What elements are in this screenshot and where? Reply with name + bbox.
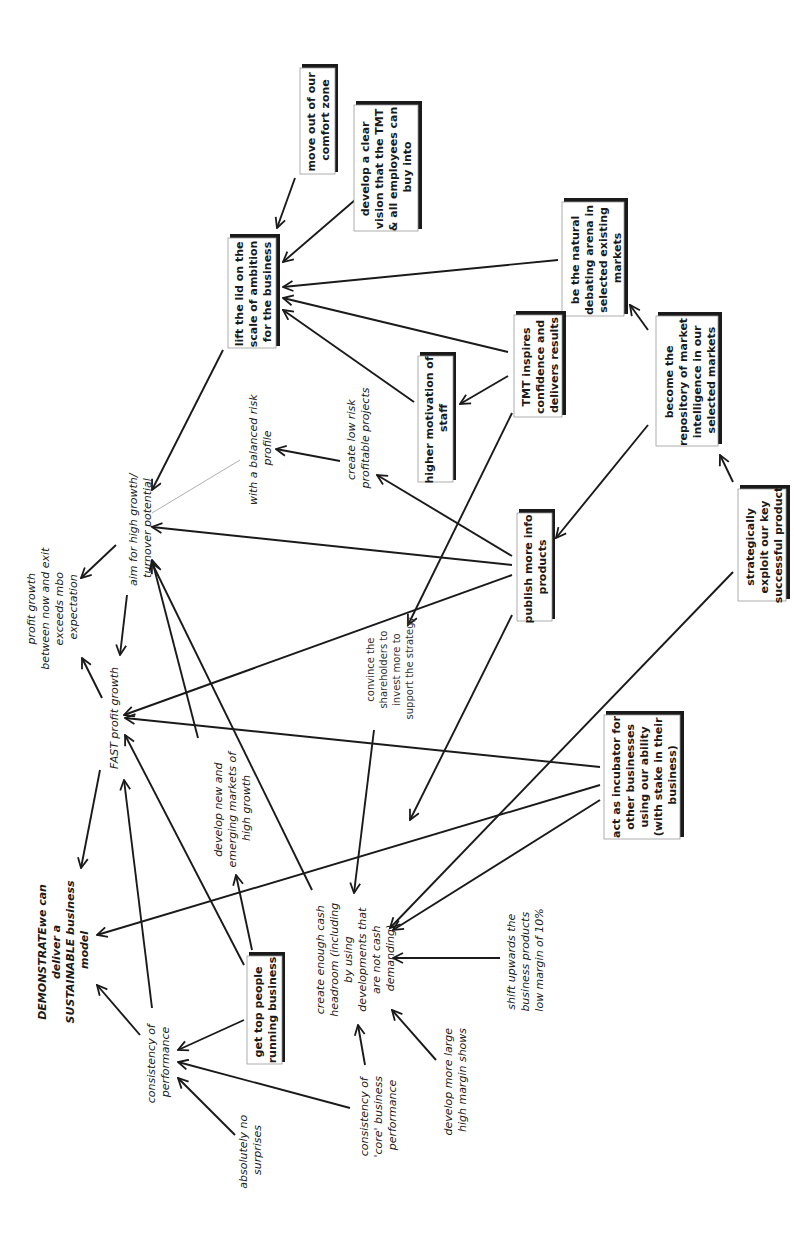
node-natural-debating-arena[interactable]: be the natural debating arena in selecte… bbox=[562, 198, 628, 316]
node-label: get top people running business bbox=[252, 956, 279, 1063]
edge-repository-to-publish bbox=[556, 425, 648, 538]
cognitive-map-canvas: move out of our comfort zone develop a c… bbox=[0, 0, 794, 1253]
node-label: TMT inspires confidence and delivers res… bbox=[520, 316, 561, 414]
node-repository-market-intelligence[interactable]: become the repository of market intellig… bbox=[656, 312, 722, 446]
edge-publish-to-cash bbox=[410, 615, 512, 820]
node-label: create low risk profitable projects bbox=[345, 387, 372, 489]
node-convince-shareholders[interactable]: convince the shareholders to invest more… bbox=[365, 616, 415, 719]
edge-publish-to-fast bbox=[124, 575, 512, 715]
edge-nosurprises-to-consistency bbox=[178, 1078, 235, 1135]
edge-fast-to-profit-exit bbox=[82, 658, 102, 698]
edge-aim-to-balanced-thin bbox=[152, 460, 240, 513]
edge-aim-to-profit-exit bbox=[81, 545, 116, 578]
edge-publish-to-lowrisk bbox=[377, 475, 512, 556]
node-act-as-incubator[interactable]: act as incubator for other businesses us… bbox=[604, 711, 684, 839]
edge-consistency-to-fast bbox=[124, 780, 152, 1008]
edge-incubator-to-fast bbox=[125, 718, 600, 767]
node-develop-clear-vision[interactable]: develop a clear vision that the TMT & al… bbox=[354, 101, 422, 231]
node-demonstrate-sustainable[interactable]: DEMONSTRATEwe can deliver a SUSTAINABLE … bbox=[36, 877, 91, 1024]
node-label: aim for high growth/ turnover potential bbox=[127, 470, 154, 586]
edge-lift-lid-to-aim bbox=[152, 350, 223, 490]
edge-incubator-to-cash bbox=[393, 800, 600, 930]
node-absolutely-no-surprises[interactable]: absolutely no surprises bbox=[237, 1111, 264, 1189]
node-label: develop more large high margin shows bbox=[442, 1024, 469, 1135]
edge-toppeople-to-newmarkets bbox=[236, 875, 252, 950]
diagram-svg: move out of our comfort zone develop a c… bbox=[0, 0, 794, 1253]
node-get-top-people[interactable]: get top people running business bbox=[247, 952, 285, 1064]
node-fast-profit-growth[interactable]: FAST profit growth bbox=[108, 667, 121, 769]
node-shift-upwards[interactable]: shift upwards the business products low … bbox=[505, 908, 546, 1011]
edge-core-to-cash bbox=[358, 1025, 365, 1065]
node-large-margin-shows[interactable]: develop more large high margin shows bbox=[442, 1024, 469, 1135]
edge-tmt-to-motivation bbox=[460, 376, 508, 404]
edge-exploit-to-repository bbox=[720, 455, 733, 482]
node-label: DEMONSTRATEwe can deliver a SUSTAINABLE … bbox=[36, 877, 91, 1024]
edge-core-to-consistency bbox=[178, 1062, 350, 1108]
node-low-risk-projects[interactable]: create low risk profitable projects bbox=[345, 387, 372, 489]
edge-move-out-to-lift-lid bbox=[277, 178, 295, 228]
node-develop-new-markets[interactable]: develop new and emerging markets of high… bbox=[212, 748, 253, 867]
node-label: profit growth between now and exit excee… bbox=[25, 544, 80, 670]
edge-debating-to-lift-lid bbox=[283, 260, 558, 287]
node-label: FAST profit growth bbox=[108, 667, 121, 769]
edge-newmarkets-to-aim bbox=[152, 560, 198, 738]
edge-convince-to-cash bbox=[354, 730, 374, 893]
edge-vision-to-lift-lid bbox=[283, 200, 355, 262]
edge-largemargin-to-cash bbox=[392, 1010, 436, 1060]
node-consistency-of-performance[interactable]: consistency of performance bbox=[145, 1021, 172, 1103]
node-lift-the-lid[interactable]: lift the lid on the scale of ambition fo… bbox=[228, 234, 280, 348]
edge-fast-to-demonstrate bbox=[81, 770, 100, 868]
node-balanced-risk-profile[interactable]: with a balanced risk profile bbox=[247, 391, 274, 505]
edge-tmt-to-lift-lid bbox=[283, 298, 508, 352]
node-cash-headroom[interactable]: create enough cash headroom (including b… bbox=[314, 899, 397, 1017]
node-aim-high-growth[interactable]: aim for high growth/ turnover potential bbox=[127, 470, 154, 586]
node-label: consistency of 'core' business performan… bbox=[358, 1072, 399, 1157]
edge-consistency-to-demonstrate bbox=[97, 985, 140, 1035]
edge-lowrisk-to-balanced bbox=[276, 449, 340, 461]
node-label: lift the lid on the scale of ambition fo… bbox=[233, 237, 274, 348]
node-tmt-inspires[interactable]: TMT inspires confidence and delivers res… bbox=[514, 311, 566, 417]
edge-publish-to-aim bbox=[152, 527, 512, 565]
node-higher-motivation[interactable]: higher motivation of staff bbox=[418, 352, 456, 484]
node-label: consistency of performance bbox=[145, 1021, 172, 1103]
node-move-out-of-comfort-zone[interactable]: move out of our comfort zone bbox=[300, 64, 338, 174]
edge-toppeople-to-consistency bbox=[178, 1020, 244, 1050]
node-label: with a balanced risk profile bbox=[247, 391, 274, 505]
edge-repository-to-debating bbox=[630, 305, 648, 330]
node-publish-info-products[interactable]: publish more info products bbox=[517, 509, 555, 623]
node-profit-growth-exit[interactable]: profit growth between now and exit excee… bbox=[25, 544, 80, 670]
node-label: absolutely no surprises bbox=[237, 1111, 264, 1189]
node-label: develop new and emerging markets of high… bbox=[212, 748, 253, 867]
node-label: create enough cash headroom (including b… bbox=[314, 899, 397, 1017]
node-strategically-exploit[interactable]: strategically exploit our key successful… bbox=[738, 485, 790, 603]
node-label: convince the shareholders to invest more… bbox=[365, 616, 415, 719]
node-label: move out of our comfort zone bbox=[305, 69, 332, 172]
edge-aim-to-fast bbox=[120, 595, 127, 655]
node-label: shift upwards the business products low … bbox=[505, 908, 546, 1011]
node-consistency-core-business[interactable]: consistency of 'core' business performan… bbox=[358, 1072, 399, 1157]
